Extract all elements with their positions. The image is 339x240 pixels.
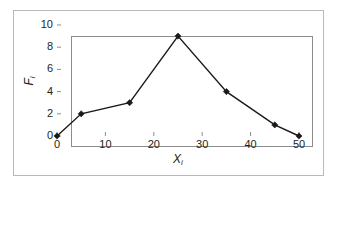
x-tick-label: 30 xyxy=(187,139,217,150)
x-tick-label: 20 xyxy=(139,139,169,150)
x-axis-title-subscript: i xyxy=(181,158,183,167)
x-tick-label: 50 xyxy=(284,139,314,150)
x-axis-title: Xi xyxy=(158,152,198,170)
y-axis-title-subscript: i xyxy=(28,76,37,78)
x-tick-label: 10 xyxy=(90,139,120,150)
y-axis-title-base: F xyxy=(22,78,36,85)
x-tick-label: 0 xyxy=(42,139,72,150)
y-axis-title: Fi xyxy=(19,71,39,91)
x-axis-title-base: X xyxy=(173,152,181,166)
x-tick-label: 40 xyxy=(236,139,266,150)
